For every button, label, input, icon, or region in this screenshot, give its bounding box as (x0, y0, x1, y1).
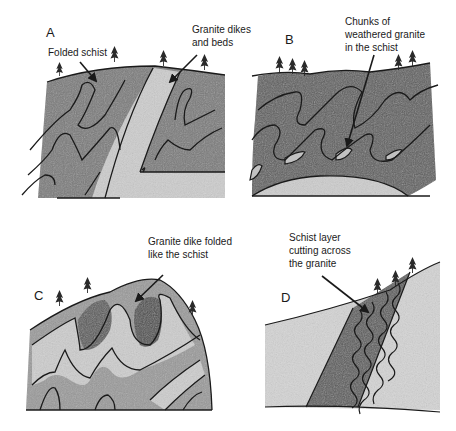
panel-c-label-line1: Granite dike folded (148, 236, 232, 247)
tree-icon (409, 50, 417, 66)
panel-a: A Folded schist Granite dikes and beds (22, 24, 251, 198)
panel-d: D Schist layer cutting across the granit… (265, 232, 440, 414)
tree-icon (201, 54, 209, 70)
panel-c-letter: C (34, 288, 43, 303)
panel-b-label-line1: Chunks of (345, 16, 390, 27)
tree-icon (56, 62, 63, 76)
tree-icon (289, 58, 297, 74)
panel-a-label-granite-line1: Granite dikes (192, 24, 251, 35)
panel-c: C Granite dike folded like the schist (26, 236, 232, 410)
panel-d-label-line2: cutting across (289, 245, 351, 256)
tree-icon (408, 257, 416, 273)
panel-b-label-line2: weathered granite (344, 29, 425, 40)
panel-b-letter: B (285, 32, 294, 47)
panel-d-label-line3: the granite (289, 258, 337, 269)
tree-icon (160, 50, 168, 66)
panel-b-label-line3: in the schist (345, 42, 398, 53)
panel-c-label-line2: like the schist (148, 249, 208, 260)
geology-diagram: A Folded schist Granite dikes and beds B… (0, 0, 456, 431)
tree-icon (276, 56, 284, 72)
panel-a-label-folded-schist: Folded schist (48, 47, 107, 58)
tree-icon (56, 290, 64, 306)
panel-a-label-granite-line2: and beds (192, 37, 233, 48)
panel-d-label-line1: Schist layer (289, 232, 341, 243)
tree-icon (111, 46, 119, 62)
panel-b: B Chunks of weathered granite in the sch… (250, 16, 438, 196)
tree-icon (84, 277, 92, 293)
panel-d-letter: D (281, 290, 290, 305)
panel-a-letter: A (46, 25, 55, 40)
